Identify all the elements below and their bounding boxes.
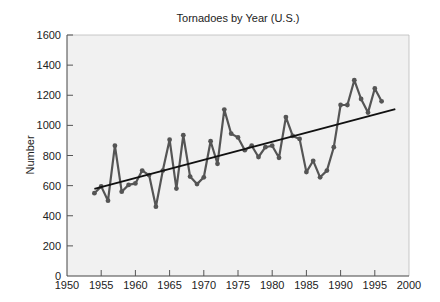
y-tick-label: 1000: [37, 119, 61, 131]
data-point-marker: [188, 174, 193, 179]
x-tick-label: 1990: [328, 279, 352, 291]
y-axis-label: Number: [24, 135, 36, 174]
tornado-chart: Tornadoes by Year (U.S.) Number 02004006…: [0, 0, 440, 302]
y-tick-label: 200: [43, 240, 61, 252]
data-point-marker: [256, 155, 261, 160]
x-tick-label: 1970: [192, 279, 216, 291]
chart-title: Tornadoes by Year (U.S.): [177, 12, 300, 24]
y-tick-label: 1200: [37, 89, 61, 101]
data-point-marker: [304, 170, 309, 175]
y-tick-label: 1400: [37, 59, 61, 71]
x-tick-label: 1980: [260, 279, 284, 291]
data-point-marker: [106, 198, 111, 203]
x-tick-label: 1950: [55, 279, 79, 291]
data-point-marker: [359, 97, 364, 102]
data-point-marker: [263, 145, 268, 150]
data-point-marker: [201, 175, 206, 180]
data-point-marker: [318, 175, 323, 180]
data-point-marker: [284, 115, 289, 120]
x-tick-label: 1975: [226, 279, 250, 291]
data-point-marker: [140, 168, 145, 173]
data-point-marker: [372, 86, 377, 91]
data-point-marker: [113, 143, 118, 148]
x-tick-label: 1960: [123, 279, 147, 291]
x-tick-label: 1985: [294, 279, 318, 291]
data-point-marker: [133, 181, 138, 186]
data-point-marker: [174, 186, 179, 191]
plot-background: [67, 35, 409, 276]
data-point-marker: [195, 182, 200, 187]
y-tick-label: 400: [43, 210, 61, 222]
data-point-marker: [331, 145, 336, 150]
data-point-marker: [338, 103, 343, 108]
data-point-marker: [167, 137, 172, 142]
data-point-marker: [352, 78, 357, 83]
data-point-marker: [379, 99, 384, 104]
data-point-marker: [325, 168, 330, 173]
data-point-marker: [126, 183, 131, 188]
data-point-marker: [92, 191, 97, 196]
x-tick-label: 1965: [157, 279, 181, 291]
data-point-marker: [277, 155, 282, 160]
data-point-marker: [181, 133, 186, 138]
y-tick-label: 600: [43, 180, 61, 192]
data-point-marker: [297, 137, 302, 142]
data-point-marker: [311, 158, 316, 163]
data-point-marker: [119, 189, 124, 194]
data-point-marker: [270, 143, 275, 148]
data-point-marker: [345, 103, 350, 108]
y-tick-label: 1600: [37, 29, 61, 41]
x-tick-label: 1995: [363, 279, 387, 291]
data-point-marker: [229, 131, 234, 136]
data-point-marker: [366, 110, 371, 115]
x-tick-label: 2000: [397, 279, 421, 291]
data-point-marker: [215, 161, 220, 166]
x-tick-label: 1955: [89, 279, 113, 291]
data-point-marker: [154, 204, 159, 209]
data-point-marker: [236, 135, 241, 140]
data-point-marker: [222, 107, 227, 112]
y-tick-label: 800: [43, 150, 61, 162]
data-point-marker: [208, 139, 213, 144]
